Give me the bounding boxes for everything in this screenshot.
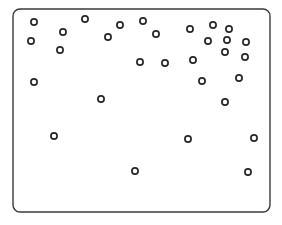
- scatter-point: [132, 168, 138, 174]
- scatter-point: [226, 26, 232, 32]
- scatter-point: [31, 19, 37, 25]
- scatter-point: [51, 133, 57, 139]
- scatter-point: [31, 79, 37, 85]
- scatter-point: [82, 16, 88, 22]
- scatter-point: [210, 22, 216, 28]
- scatter-point: [28, 38, 34, 44]
- scatter-point: [251, 135, 257, 141]
- scatter-point: [185, 136, 191, 142]
- scatter-point: [199, 78, 205, 84]
- scatter-point: [117, 22, 123, 28]
- scatter-point: [137, 59, 143, 65]
- scatter-point: [60, 29, 66, 35]
- scatter-point: [205, 38, 211, 44]
- scatter-point: [57, 47, 63, 53]
- scatter-point: [187, 26, 193, 32]
- scatter-point: [162, 60, 168, 66]
- scatter-point: [98, 96, 104, 102]
- scatter-point: [105, 34, 111, 40]
- scatter-point: [224, 37, 230, 43]
- scatter-point: [222, 99, 228, 105]
- scatter-point: [190, 57, 196, 63]
- scatter-point: [140, 18, 146, 24]
- plot-frame-border: [13, 9, 270, 212]
- scatter-point: [236, 75, 242, 81]
- scatter-point: [222, 49, 228, 55]
- scatter-plot-panel: [0, 0, 282, 225]
- scatter-point: [245, 169, 251, 175]
- scatter-point: [243, 39, 249, 45]
- scatter-point: [153, 31, 159, 37]
- scatter-point: [242, 54, 248, 60]
- scatter-plot-canvas: [0, 0, 282, 225]
